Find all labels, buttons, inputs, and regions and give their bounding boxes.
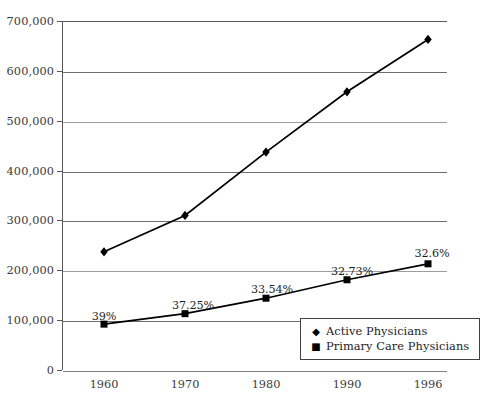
y-tick-mark-700000 — [57, 21, 62, 22]
y-tick-mark-400000 — [57, 171, 62, 172]
gridline-500000 — [63, 122, 447, 123]
x-axis-label-1990: 1990 — [312, 378, 382, 391]
y-tick-mark-500000 — [57, 121, 62, 122]
y-axis-label-600000: 600,000 — [0, 64, 54, 77]
data-label-1980: 33.54% — [251, 283, 293, 296]
y-axis-label-400000: 400,000 — [0, 164, 54, 177]
x-axis-line — [63, 371, 447, 372]
y-tick-mark-100000 — [57, 320, 62, 321]
gridline-600000 — [63, 72, 447, 73]
gridline-400000 — [63, 172, 447, 173]
square-marker-icon: ■ — [309, 339, 323, 354]
y-axis-label-700000: 700,000 — [0, 15, 54, 28]
y-tick-mark-600000 — [57, 71, 62, 72]
y-axis-label-200000: 200,000 — [0, 264, 54, 277]
legend-label-primary-care-physicians: Primary Care Physicians — [326, 339, 469, 354]
data-label-1990: 32.73% — [331, 265, 373, 278]
data-label-1960: 39% — [92, 310, 117, 323]
diamond-marker-icon: ◆ — [309, 324, 323, 339]
y-axis-label-300000: 300,000 — [0, 214, 54, 227]
y-tick-mark-0 — [57, 370, 62, 371]
y-axis-label-500000: 500,000 — [0, 114, 54, 127]
x-axis-label-1980: 1980 — [231, 378, 301, 391]
y-tick-mark-300000 — [57, 220, 62, 221]
y-tick-mark-200000 — [57, 270, 62, 271]
x-axis-label-1970: 1970 — [150, 378, 220, 391]
legend-item-primary-care-physicians[interactable]: ■ Primary Care Physicians — [309, 339, 469, 354]
x-axis-label-1996: 1996 — [393, 378, 463, 391]
legend-label-active-physicians: Active Physicians — [326, 324, 427, 339]
legend-item-active-physicians[interactable]: ◆ Active Physicians — [309, 324, 469, 339]
x-axis-label-1960: 1960 — [69, 378, 139, 391]
gridline-300000 — [63, 221, 447, 222]
data-label-1996: 32.6% — [414, 247, 449, 260]
data-label-1970: 37.25% — [172, 299, 214, 312]
gridline-200000 — [63, 271, 447, 272]
y-axis-label-0: 0 — [0, 364, 54, 377]
legend[interactable]: ◆ Active Physicians ■ Primary Care Physi… — [300, 318, 480, 360]
y-axis-label-100000: 100,000 — [0, 314, 54, 327]
